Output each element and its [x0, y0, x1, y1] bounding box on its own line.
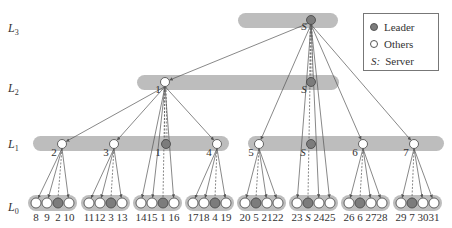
l0-node: [418, 198, 428, 208]
l0-node: [136, 198, 146, 208]
l0-node: [355, 198, 365, 208]
l0-node-label: 16: [169, 211, 181, 223]
l1-node: [255, 140, 264, 149]
l1-node: [162, 140, 171, 149]
l1-node: [410, 140, 419, 149]
l0-node-label: 22: [273, 211, 284, 223]
l0-node: [53, 198, 63, 208]
level-label-l1: L1: [7, 137, 19, 153]
edge: [62, 149, 68, 198]
level-label-l2: L2: [7, 81, 19, 97]
l0-node: [344, 198, 354, 208]
l0-node-label: 9: [44, 211, 50, 223]
l0-node-label: 2: [55, 211, 61, 223]
edge: [414, 149, 422, 198]
l0-node-label: 3: [108, 211, 114, 223]
edge: [114, 149, 121, 198]
edge: [360, 149, 363, 199]
l0-node: [147, 198, 157, 208]
l3-node-label: S: [301, 20, 307, 32]
l0-node: [210, 198, 220, 208]
others-swatch-icon: [370, 40, 378, 48]
l0-node: [95, 198, 105, 208]
edge: [414, 149, 432, 198]
leader-swatch-icon: [370, 23, 378, 31]
l0-node-label: 30: [418, 211, 430, 223]
l0-node: [377, 198, 387, 208]
l1-node-label: S: [300, 146, 306, 158]
l0-node-label: 12: [95, 211, 106, 223]
l0-node-label: 14: [136, 211, 148, 223]
l0-node: [158, 198, 168, 208]
level-label-l0: L0: [7, 200, 19, 216]
l0-node: [303, 198, 313, 208]
l0-node-label: 4: [212, 211, 218, 223]
l0-node-label: 25: [325, 211, 337, 223]
l0-node-label: 6: [357, 211, 363, 223]
l0-node-label: 19: [221, 211, 233, 223]
l0-node: [396, 198, 406, 208]
l0-node: [169, 198, 179, 208]
l2-node-label: S: [301, 83, 307, 95]
l0-node-label: 29: [396, 211, 408, 223]
l0-node-label: 11: [84, 211, 95, 223]
edge: [170, 23, 309, 80]
edge: [66, 87, 165, 142]
l1-node-label: 5: [248, 146, 254, 158]
l0-node-label: 18: [199, 211, 211, 223]
legend-leader-label: Leader: [384, 21, 415, 33]
legend: Leader Others S: Server: [363, 13, 439, 71]
l0-node: [42, 198, 52, 208]
l0-node-label: 1: [160, 211, 166, 223]
l1-node: [359, 140, 368, 149]
l0-node: [314, 198, 324, 208]
l0-node-label: 27: [366, 211, 378, 223]
l0-node-label: 20: [240, 211, 252, 223]
l2-node: [307, 78, 316, 87]
l2-node-label: 1: [155, 83, 161, 95]
l0-node-label: 17: [188, 211, 200, 223]
l0-node-label: 15: [147, 211, 159, 223]
l1-node-label: 6: [352, 146, 358, 158]
level-label-l3: L3: [7, 21, 19, 37]
edge: [311, 25, 319, 198]
edge: [363, 149, 370, 198]
l0-node-label: S: [305, 211, 311, 223]
legend-others: Others: [370, 37, 413, 51]
l0-node-label: 24: [314, 211, 326, 223]
l0-node: [273, 198, 283, 208]
legend-server-label: Server: [385, 55, 414, 67]
edge: [308, 25, 311, 199]
l0-node: [199, 198, 209, 208]
edge: [311, 25, 329, 198]
l0-node-label: 28: [377, 211, 389, 223]
l0-node: [188, 198, 198, 208]
edge: [259, 149, 276, 198]
edge: [256, 149, 259, 199]
l0-node: [407, 198, 417, 208]
l0-node: [117, 198, 127, 208]
edge: [259, 149, 266, 198]
l1-node: [307, 140, 316, 149]
l1-node: [110, 140, 119, 149]
edge: [111, 149, 114, 199]
edge: [217, 149, 225, 198]
l0-node: [292, 198, 302, 208]
l0-node: [106, 198, 116, 208]
l0-node-label: 13: [117, 211, 129, 223]
l0-node-label: 7: [409, 211, 415, 223]
l1-node-label: 4: [206, 146, 212, 158]
l0-node: [84, 198, 94, 208]
l1-node-label: 1: [155, 146, 161, 158]
l0-node: [240, 198, 250, 208]
edge: [363, 149, 380, 198]
l1-node: [213, 140, 222, 149]
l0-node-label: 26: [344, 211, 356, 223]
l1-node-label: 2: [51, 146, 57, 158]
l0-node: [262, 198, 272, 208]
l1-node-label: 7: [403, 146, 409, 158]
l0-node-label: 5: [253, 211, 259, 223]
l0-node: [429, 198, 439, 208]
legend-leader: Leader: [370, 20, 415, 34]
l0-node-label: 31: [429, 211, 440, 223]
